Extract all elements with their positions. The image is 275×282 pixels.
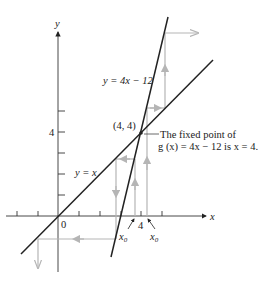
label-fixed-point: (4, 4) [113,120,136,132]
y-tick-label-4: 4 [49,127,55,138]
origin-label: 0 [61,219,66,230]
y-axis-label: y [54,18,60,29]
fixed-point-marker [139,131,143,135]
x0-left-label: x0 [118,231,128,244]
x0-left-pointer [128,219,134,229]
y-ticks [58,111,65,195]
x-axis-label: x [209,211,215,222]
line-y-equals-x [21,60,213,254]
label-function-line: y = 4x − 12 [102,75,153,86]
annotation-line-2: g (x) = 4x − 12 is x = 4. [158,141,258,153]
x0-right-label: x0 [149,231,159,244]
annotation-line-1: The fixed point of [160,129,237,140]
label-identity-line: y = x [74,167,97,178]
x0-right-sub: 0 [155,236,159,244]
x-tick-label-4: 4 [138,220,144,231]
x0-right-pointer [148,219,155,229]
cobweb-diagram: x y 0 4 4 [0,0,275,282]
x0-left-sub: 0 [124,236,128,244]
cobweb-right [147,33,198,216]
x-ticks [17,211,162,216]
